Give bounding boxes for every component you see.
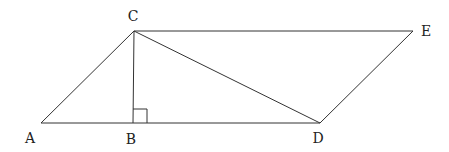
label-D: D [312, 130, 323, 146]
segments [41, 31, 413, 123]
segment-AC [41, 31, 134, 123]
label-A: A [24, 130, 36, 146]
geometry-diagram: A B C D E [0, 0, 449, 152]
label-B: B [126, 131, 136, 147]
label-E: E [421, 23, 431, 39]
right-angle-marker [133, 109, 147, 123]
segment-ED [320, 31, 413, 123]
label-C: C [128, 8, 139, 24]
segment-CD [134, 31, 320, 123]
